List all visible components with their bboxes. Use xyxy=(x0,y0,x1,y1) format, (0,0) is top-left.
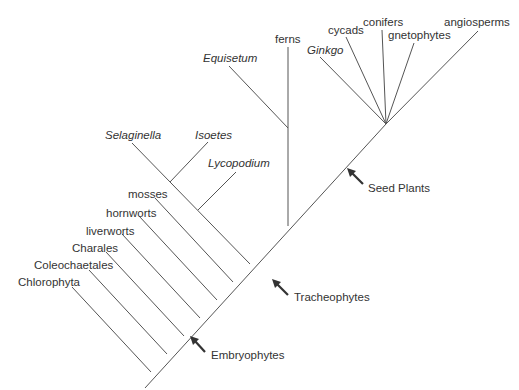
branch-hornworts xyxy=(139,216,217,300)
branch-cycads xyxy=(346,37,386,124)
branch-mosses xyxy=(155,198,233,282)
seed-plants-arrow-shaft xyxy=(352,173,363,184)
label-gnetophytes: gnetophytes xyxy=(388,30,451,42)
tree-lines xyxy=(0,0,519,390)
label-embryophytes: Embryophytes xyxy=(211,350,285,362)
branch-chlorophyta xyxy=(72,287,151,372)
label-mosses: mosses xyxy=(128,189,168,201)
tracheophytes-arrow-shaft xyxy=(277,284,288,295)
label-tracheophytes: Tracheophytes xyxy=(294,292,370,304)
label-selaginella: Selaginella xyxy=(105,130,161,142)
label-charales: Charales xyxy=(72,243,118,255)
label-chlorophyta: Chlorophyta xyxy=(18,277,80,289)
label-conifers: conifers xyxy=(363,17,403,29)
label-coleochaetales: Coleochaetales xyxy=(34,260,113,272)
label-cycads: cycads xyxy=(328,25,364,37)
label-seed-plants: Seed Plants xyxy=(368,183,430,195)
branch-charales xyxy=(106,252,184,336)
branch-ginkgo xyxy=(320,57,386,124)
branch-coleochaetales xyxy=(89,270,167,354)
branch-lycopodium xyxy=(198,172,236,210)
label-hornworts: hornworts xyxy=(106,208,157,220)
branch-angiosperms xyxy=(386,31,478,124)
embryophytes-arrow-shaft xyxy=(195,341,205,352)
label-angiosperms: angiosperms xyxy=(444,17,510,29)
branch-conifers xyxy=(382,30,386,124)
cladogram: Chlorophyta Coleochaetales Charales live… xyxy=(0,0,519,390)
branch-isoetes xyxy=(170,142,208,182)
label-ginkgo: Ginkgo xyxy=(307,45,343,57)
branch-gnetophytes xyxy=(386,43,414,124)
label-equisetum: Equisetum xyxy=(203,53,257,65)
label-ferns: ferns xyxy=(275,34,301,46)
label-isoetes: Isoetes xyxy=(195,130,232,142)
label-liverworts: liverworts xyxy=(86,226,135,238)
label-lycopodium: Lycopodium xyxy=(208,158,270,170)
branch-equisetum xyxy=(229,66,288,128)
branch-liverworts xyxy=(122,234,200,318)
